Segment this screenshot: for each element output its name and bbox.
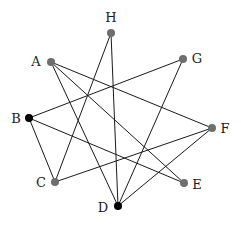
node-label-d: D [98, 200, 108, 215]
node-h [107, 29, 115, 37]
edge-b-e [29, 118, 184, 183]
edge-g-b [29, 59, 183, 118]
node-d [114, 202, 122, 210]
node-f [208, 124, 216, 132]
node-label-g: G [192, 51, 202, 66]
edge-f-d [118, 128, 212, 206]
nodes-layer [25, 29, 216, 210]
node-label-h: H [105, 10, 116, 25]
graph-diagram: ABCDEFGH [0, 0, 241, 227]
node-a [47, 58, 55, 66]
node-b [25, 114, 33, 122]
edge-f-c [55, 128, 212, 182]
edge-h-c [55, 33, 111, 182]
node-g [179, 55, 187, 63]
node-label-b: B [11, 111, 21, 126]
edge-a-e [51, 62, 184, 183]
node-e [180, 179, 188, 187]
node-label-f: F [220, 121, 229, 136]
edge-a-d [51, 62, 118, 206]
node-c [51, 178, 59, 186]
node-label-e: E [192, 177, 202, 192]
edge-a-f [51, 62, 212, 128]
edge-h-d [111, 33, 118, 206]
node-label-c: C [36, 175, 46, 190]
node-label-a: A [30, 54, 41, 69]
